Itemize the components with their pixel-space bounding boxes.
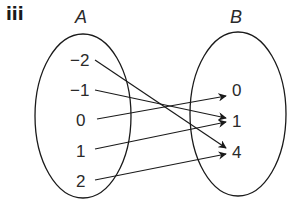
domain-element: −2 bbox=[70, 51, 89, 70]
domain-element: 1 bbox=[76, 142, 85, 161]
codomain-element: 4 bbox=[232, 143, 241, 162]
codomain-element: 0 bbox=[232, 81, 241, 100]
codomain-element: 1 bbox=[232, 112, 241, 131]
arrow-neg1-to-1 bbox=[95, 90, 226, 118]
domain-element: 2 bbox=[76, 172, 85, 191]
domain-element: −1 bbox=[70, 81, 89, 100]
set-a-label: A bbox=[74, 7, 87, 27]
domain-element: 0 bbox=[76, 111, 85, 130]
set-b-label: B bbox=[230, 7, 242, 27]
part-label: iii bbox=[6, 4, 23, 24]
mapping-diagram: iii A B −2 −1 0 1 2 0 1 4 bbox=[0, 0, 289, 212]
arrow-0-to-0 bbox=[97, 96, 226, 119]
